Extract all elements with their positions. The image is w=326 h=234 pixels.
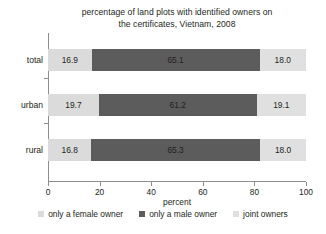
legend-swatch-icon: [139, 211, 145, 217]
legend-label: only a male owner: [149, 209, 217, 219]
chart-title: percentage of land plots with identified…: [48, 7, 306, 30]
bar-segment: 16.9: [48, 49, 92, 71]
bar-segment: 19.1: [257, 94, 306, 116]
bar-segment: 18.0: [260, 49, 306, 71]
bar-segment: 65.1: [92, 49, 260, 71]
x-axis-tick-label: 20: [95, 187, 104, 197]
legend-item: only a female owner: [38, 209, 123, 219]
chart-title-line-2: the certificates, Vietnam, 2008: [48, 19, 306, 31]
x-axis-tick: [151, 182, 152, 186]
legend-swatch-icon: [233, 211, 239, 217]
bar-segment: 61.2: [99, 94, 257, 116]
x-axis-tick-label: 40: [147, 187, 156, 197]
bar-row: urban19.761.219.1: [48, 94, 306, 116]
category-label: urban: [21, 94, 43, 116]
x-axis-tick: [48, 182, 49, 186]
legend-label: joint owners: [243, 209, 288, 219]
x-axis-tick: [254, 182, 255, 186]
bar-segment: 16.8: [48, 139, 91, 161]
chart-title-line-1: percentage of land plots with identified…: [48, 7, 306, 19]
bar-segment: 18.0: [260, 139, 306, 161]
legend-label: only a female owner: [48, 209, 123, 219]
x-axis-tick-label: 60: [198, 187, 207, 197]
x-axis-tick: [100, 182, 101, 186]
plot-area: total16.965.118.0urban19.761.219.1rural1…: [48, 33, 306, 181]
x-axis-tick: [306, 182, 307, 186]
x-axis-line: [48, 181, 306, 182]
x-axis-tick: [203, 182, 204, 186]
category-label: total: [27, 49, 43, 71]
x-axis-title: percent: [48, 197, 306, 207]
legend-item: joint owners: [233, 209, 288, 219]
bar-row: rural16.865.318.0: [48, 139, 306, 161]
chart-legend: only a female owneronly a male ownerjoin…: [0, 209, 326, 219]
category-label: rural: [26, 139, 43, 161]
bar-segment: 65.3: [91, 139, 259, 161]
x-axis-tick-label: 0: [46, 187, 51, 197]
x-axis-tick-label: 100: [299, 187, 313, 197]
y-axis-tick: [44, 78, 48, 79]
stacked-bar-chart: percentage of land plots with identified…: [0, 0, 326, 234]
legend-item: only a male owner: [139, 209, 217, 219]
y-axis-tick: [44, 123, 48, 124]
legend-swatch-icon: [38, 211, 44, 217]
bar-segment: 19.7: [48, 94, 99, 116]
bar-row: total16.965.118.0: [48, 49, 306, 71]
x-axis-tick-label: 80: [250, 187, 259, 197]
